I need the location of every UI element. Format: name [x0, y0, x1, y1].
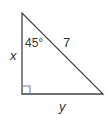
- right-angle-marker: [22, 86, 30, 94]
- hypotenuse-label: 7: [63, 35, 70, 50]
- triangle-diagram: 45° 7 x y: [0, 0, 110, 115]
- horizontal-leg-label: y: [58, 99, 67, 114]
- angle-label: 45°: [25, 36, 43, 50]
- vertical-leg-label: x: [9, 48, 17, 63]
- right-triangle: [22, 13, 103, 94]
